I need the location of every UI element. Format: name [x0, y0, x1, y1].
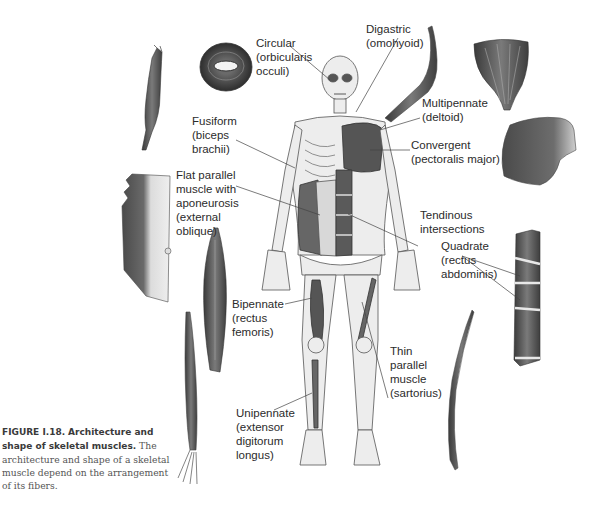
- label-flat-parallel: Flat parallel muscle with aponeurosis (e…: [176, 168, 239, 238]
- fusiform-muscle-icon: [142, 45, 162, 150]
- bipennate-muscle-icon: [204, 228, 227, 372]
- label-digastric: Digastric (omohyoid): [366, 22, 424, 50]
- label-convergent: Convergent (pectoralis major): [411, 138, 500, 166]
- label-bipennate: Bipennate (rectus femoris): [232, 297, 284, 339]
- label-quadrate: Quadrate (rectus abdominis): [441, 239, 497, 281]
- label-fusiform: Fusiform (biceps brachii): [192, 114, 237, 156]
- unipennate-muscle-icon: [178, 312, 197, 484]
- figure-number: FIGURE I.18.: [2, 427, 65, 437]
- label-multipennate: Multipennate (deltoid): [422, 96, 488, 124]
- muscle-architecture-figure: Circular (orbicularis occuli) Digastric …: [0, 0, 594, 508]
- flat-parallel-muscle-icon: [122, 174, 171, 302]
- convergent-muscle-icon: [502, 117, 576, 185]
- label-tendinous-intersections: Tendinous intersections: [420, 208, 485, 236]
- label-circular: Circular (orbicularis occuli): [256, 36, 312, 78]
- label-unipennate: Unipennate (extensor digitorum longus): [236, 406, 295, 462]
- circular-muscle-icon: [200, 43, 252, 91]
- thin-parallel-muscle-icon: [448, 310, 474, 470]
- figure-caption: FIGURE I.18. Architecture and shape of s…: [2, 425, 177, 492]
- label-thin-parallel: Thin parallel muscle (sartorius): [390, 344, 442, 400]
